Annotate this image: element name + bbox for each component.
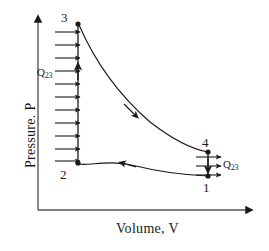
y-axis-label: Pressure. P <box>24 102 38 168</box>
heat-label-left-symbol: Q <box>37 66 45 78</box>
state-point-dots <box>75 21 210 178</box>
process-3-4 <box>79 25 208 152</box>
state-point-1-dot <box>205 173 210 178</box>
heat-label-left: Q23 <box>37 67 52 78</box>
state-point-3-dot <box>75 21 80 26</box>
heat-label-right-subscript: 23 <box>231 163 239 172</box>
state-point-2-dot <box>75 160 80 165</box>
process-1-2 <box>79 163 208 176</box>
heat-label-left-subscript: 23 <box>45 71 53 80</box>
heat-arrows-q23-left <box>55 32 80 161</box>
process-1-2-curve <box>79 163 208 176</box>
state-point-4-dot <box>205 149 210 154</box>
state-point-label-4: 4 <box>202 136 209 149</box>
process-3-4-direction-arrow <box>124 104 136 116</box>
process-4-1 <box>196 152 221 176</box>
state-point-label-1: 1 <box>203 181 210 194</box>
x-axis-label: Volume, V <box>116 222 179 236</box>
heat-label-right: Q23 <box>223 159 238 170</box>
heat-label-right-symbol: Q <box>223 158 231 170</box>
process-2-3 <box>55 24 80 163</box>
state-point-label-3: 3 <box>61 11 68 24</box>
state-point-label-2: 2 <box>60 168 67 181</box>
pv-diagram-canvas <box>0 0 269 251</box>
pv-diagram-figure: 3 2 4 1 Q23 Q23 Volume, V Pressure. P <box>0 0 269 251</box>
process-3-4-curve <box>79 25 208 152</box>
